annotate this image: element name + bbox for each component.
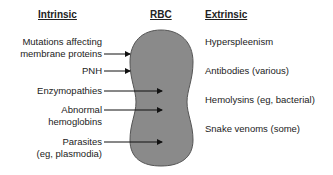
extrinsic-item-hemolysins: Hemolysins (eg, bacterial) xyxy=(205,94,315,106)
rbc-header: RBC xyxy=(150,9,172,20)
label-line: (eg, plasmodia) xyxy=(37,148,102,160)
label-line: Parasites xyxy=(37,136,102,148)
label-line: Abnormal xyxy=(48,104,102,116)
extrinsic-header: Extrinsic xyxy=(205,9,247,20)
extrinsic-item-snake-venoms: Snake venoms (some) xyxy=(205,123,300,135)
intrinsic-item-pnh: PNH xyxy=(82,65,102,77)
label-line: hemoglobins xyxy=(48,116,102,128)
intrinsic-item-enzymopathies: Enzymopathies xyxy=(37,85,102,97)
intrinsic-item-membrane: Mutations affecting membrane proteins xyxy=(20,36,102,60)
label-line: PNH xyxy=(82,65,102,77)
intrinsic-header: Intrinsic xyxy=(38,9,77,20)
rbc-cell-shape xyxy=(130,30,193,166)
intrinsic-item-parasites: Parasites (eg, plasmodia) xyxy=(37,136,102,160)
extrinsic-item-hypersplenism: Hyperspleenism xyxy=(205,36,273,48)
label-line: membrane proteins xyxy=(20,48,102,60)
intrinsic-item-hemoglobins: Abnormal hemoglobins xyxy=(48,104,102,128)
label-line: Mutations affecting xyxy=(20,36,102,48)
label-line: Enzymopathies xyxy=(37,85,102,97)
extrinsic-item-antibodies: Antibodies (various) xyxy=(205,65,289,77)
